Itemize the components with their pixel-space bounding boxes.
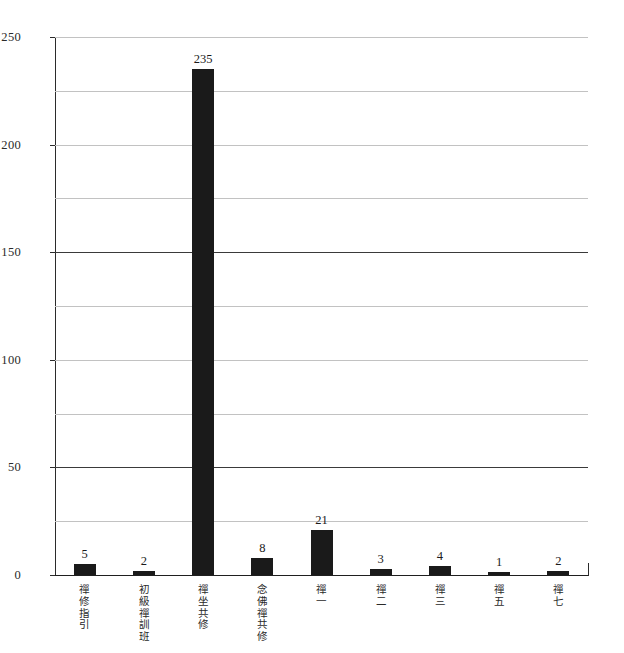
y-axis-tick-label: 100 <box>0 354 21 367</box>
x-axis-category-label: 禪坐共修 <box>195 584 211 631</box>
x-axis-category-label: 禪五 <box>491 584 507 608</box>
gridline-225 <box>55 91 588 92</box>
bar-value-label: 2 <box>555 555 561 568</box>
bar <box>251 558 273 575</box>
bar-value-label: 21 <box>315 514 328 527</box>
x-axis-category-label: 禪七 <box>550 584 566 608</box>
bar <box>192 69 214 575</box>
bar-value-label: 1 <box>496 556 502 569</box>
x-axis-category-label: 禪三 <box>432 584 448 608</box>
bar <box>311 530 333 575</box>
y-axis-tickmark <box>50 37 55 38</box>
bar <box>488 572 510 575</box>
gridline-175 <box>55 198 588 199</box>
y-axis-tick-label: 50 <box>0 461 21 474</box>
y-axis-tick-label: 250 <box>0 31 21 44</box>
y-axis-tickmark <box>50 252 55 253</box>
x-axis-category-label: 初級禪訓班 <box>136 584 152 643</box>
x-axis-category-label: 禪一 <box>314 584 330 608</box>
bar <box>133 571 155 575</box>
bar <box>547 571 569 575</box>
bar <box>429 566 451 575</box>
gridline-75 <box>55 414 588 415</box>
gridline-125 <box>55 306 588 307</box>
x-axis-end-cap <box>588 563 589 576</box>
x-axis-category-label: 念佛禪共修 <box>254 584 270 643</box>
bar-value-label: 2 <box>141 555 147 568</box>
y-axis-tickmark <box>50 467 55 468</box>
bar <box>370 569 392 575</box>
gridline-50 <box>55 467 588 468</box>
bar-value-label: 5 <box>81 548 87 561</box>
y-axis-tickmark <box>50 575 55 576</box>
bar-chart-figure: 250200150100500 522358213412 禪修指引初級禪訓班禪坐… <box>0 0 624 653</box>
bar-value-label: 235 <box>194 53 213 66</box>
gridline-100 <box>55 360 588 361</box>
y-axis-tick-label: 150 <box>0 246 21 259</box>
x-axis-baseline <box>55 575 588 576</box>
gridline-150 <box>55 252 588 253</box>
y-axis-tickmark <box>50 360 55 361</box>
x-axis-category-label: 禪二 <box>373 584 389 608</box>
y-axis-tick-label: 200 <box>0 139 21 152</box>
bar-value-label: 4 <box>437 550 443 563</box>
x-axis-category-label: 禪修指引 <box>77 584 93 631</box>
gridline-250 <box>55 37 588 38</box>
bar-value-label: 8 <box>259 542 265 555</box>
gridline-200 <box>55 145 588 146</box>
bar-value-label: 3 <box>378 553 384 566</box>
bar <box>74 564 96 575</box>
y-axis-tickmark <box>50 145 55 146</box>
y-axis-tick-label: 0 <box>0 569 21 582</box>
